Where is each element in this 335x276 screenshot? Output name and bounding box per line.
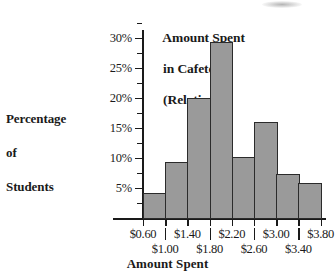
y-axis-tick-label: 10% <box>95 152 132 164</box>
x-axis-tick-label: $1.00 <box>143 243 187 256</box>
y-axis-tick-label: 5% <box>95 182 132 194</box>
histogram-bar <box>298 183 322 219</box>
y-axis-tick-label: 25% <box>95 62 132 74</box>
histogram-bar <box>254 122 278 219</box>
y-axis-tick-label: 30% <box>95 32 132 44</box>
x-axis-tick <box>276 219 277 226</box>
x-axis-tick-label: $3.80 <box>299 228 335 241</box>
y-axis-tick <box>135 38 142 39</box>
y-axis-tick-label-wrap: 15% <box>95 122 132 134</box>
y-axis-tick-label: 20% <box>95 92 132 104</box>
x-axis-tick <box>165 219 166 226</box>
x-axis-title: Amount Spent <box>0 256 335 272</box>
histogram-chart: Amount Spent in Cafeteria (Relative) Per… <box>0 0 335 276</box>
y-axis-tick-label-wrap: 5% <box>95 182 132 194</box>
scan-artifact <box>262 1 302 8</box>
y-axis-tick-label-wrap: 10% <box>95 152 132 164</box>
y-axis-title: Percentage of Students <box>6 93 66 195</box>
y-axis-title-line-1: Percentage <box>6 111 66 126</box>
x-axis-tick-label: $2.20 <box>210 228 254 241</box>
histogram-bar <box>276 174 300 220</box>
x-axis-tick-label: $0.60 <box>121 228 165 241</box>
y-axis-title-line-3: Students <box>6 179 54 194</box>
y-axis-minor-tick <box>137 23 142 24</box>
y-axis-minor-tick <box>137 143 142 144</box>
x-axis-tick <box>298 219 299 226</box>
y-axis-minor-tick <box>137 83 142 84</box>
y-axis-tick-label-wrap: 25% <box>95 62 132 74</box>
x-axis-tick <box>187 219 188 226</box>
y-axis-minor-tick <box>137 53 142 54</box>
x-axis-tick <box>210 219 211 226</box>
histogram-bar <box>187 98 211 219</box>
y-axis-title-line-2: of <box>6 145 17 160</box>
histogram-bar <box>232 157 256 220</box>
y-axis-tick <box>135 68 142 69</box>
x-label-separator <box>254 228 255 240</box>
x-axis-tick-label: $3.00 <box>254 228 298 241</box>
histogram-bar <box>143 193 167 220</box>
x-axis-tick <box>143 219 144 226</box>
histogram-bar <box>165 162 189 219</box>
y-axis-tick-label-wrap: 20% <box>95 92 132 104</box>
histogram-bar <box>210 42 234 219</box>
x-label-separator <box>210 228 211 240</box>
x-axis-tick-label: $2.60 <box>232 243 276 256</box>
y-axis-tick-label: 15% <box>95 122 132 134</box>
x-label-separator <box>298 228 299 240</box>
x-axis-tick-label: $1.40 <box>165 228 209 241</box>
y-axis-minor-tick <box>137 203 142 204</box>
y-axis-tick <box>135 128 142 129</box>
y-axis-minor-tick <box>137 113 142 114</box>
y-axis-tick-label-wrap: 30% <box>95 32 132 44</box>
x-axis-tick <box>321 219 322 226</box>
x-label-separator <box>165 228 166 240</box>
x-axis-tick <box>254 219 255 226</box>
x-axis-tick-label: $3.40 <box>276 243 320 256</box>
x-axis-tick <box>232 219 233 226</box>
y-axis-tick <box>135 98 142 99</box>
y-axis-line <box>142 30 144 219</box>
x-axis-tick-label: $1.80 <box>188 243 232 256</box>
y-axis-minor-tick <box>137 173 142 174</box>
y-axis-tick <box>135 188 142 189</box>
y-axis-tick <box>135 158 142 159</box>
